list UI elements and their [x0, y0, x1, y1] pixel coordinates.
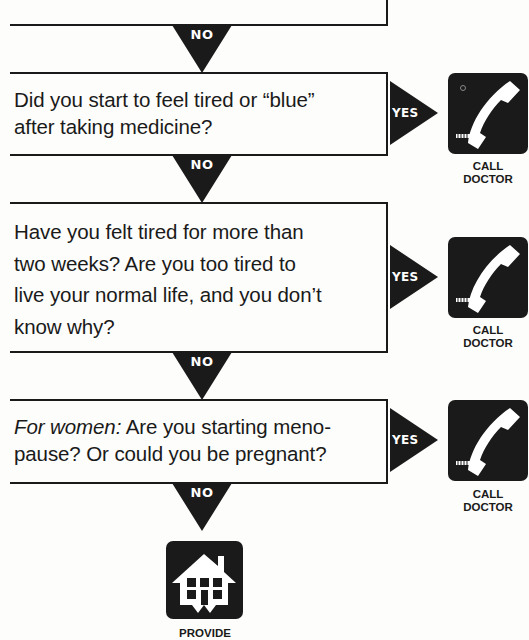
label-line: DOCTOR [448, 337, 528, 350]
question-box-medicine: Did you start to feel tired or “blue” af… [10, 72, 388, 156]
no-label: NO [172, 27, 232, 42]
label-line: DOCTOR [448, 501, 528, 514]
telephone-icon [448, 73, 528, 154]
question-box-fatigue: Have you felt tired for more than two we… [10, 202, 388, 353]
yes-label: YES [392, 270, 418, 284]
call-doctor-tile [448, 400, 528, 481]
question-line: live your normal life, and you don’t [14, 279, 376, 311]
question-line: pause? Or could you be pregnant? [14, 440, 376, 467]
no-label: NO [172, 157, 232, 172]
provide-home-care-tile [166, 541, 243, 619]
question-box-seizure: • Seizure, convulsion or fit [10, 0, 388, 26]
question-text: For women: Are you starting meno- pause?… [14, 413, 376, 467]
house-icon [166, 541, 243, 619]
call-doctor-label: CALL DOCTOR [448, 324, 528, 350]
call-doctor-label: CALL DOCTOR [448, 160, 528, 186]
question-box-women: For women: Are you starting meno- pause?… [10, 399, 388, 484]
question-text: Have you felt tired for more than two we… [14, 216, 376, 342]
yes-label: YES [392, 433, 418, 447]
call-doctor-tile [448, 237, 528, 318]
label-line: CALL [448, 324, 528, 337]
question-line: For women: Are you starting meno- [14, 413, 376, 440]
question-line-rest: Are you starting meno- [121, 415, 331, 438]
call-doctor-label: CALL DOCTOR [448, 488, 528, 514]
question-line: two weeks? Are you too tired to [14, 248, 376, 280]
telephone-icon [448, 400, 528, 481]
italic-prefix: For women: [14, 415, 121, 438]
label-line: DOCTOR [448, 173, 528, 186]
label-line: CALL [448, 160, 528, 173]
question-text: Did you start to feel tired or “blue” af… [14, 86, 376, 140]
question-line: know why? [14, 311, 376, 343]
label-line: PROVIDE [165, 627, 245, 640]
no-label: NO [172, 354, 232, 369]
provide-label: PROVIDE [165, 627, 245, 640]
question-line: after taking medicine? [14, 113, 376, 140]
call-doctor-tile [448, 73, 528, 154]
question-line: Did you start to feel tired or “blue” [14, 86, 376, 113]
question-line: Have you felt tired for more than [14, 216, 376, 248]
telephone-icon [448, 237, 528, 318]
yes-label: YES [392, 106, 418, 120]
no-label: NO [172, 485, 232, 500]
label-line: CALL [448, 488, 528, 501]
